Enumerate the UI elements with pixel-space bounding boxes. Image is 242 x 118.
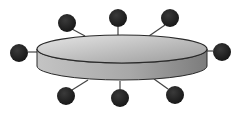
- node-right: [213, 43, 231, 61]
- hub-top: [37, 35, 207, 63]
- node-top-right-link: [149, 25, 165, 36]
- node-bottom-right-link: [154, 79, 168, 89]
- node-top-center: [109, 9, 127, 27]
- node-bottom-center: [111, 89, 129, 107]
- node-top-left-link: [72, 29, 85, 36]
- node-bottom-right: [166, 86, 184, 104]
- bus-topology-diagram: [0, 0, 242, 118]
- diagram-canvas: [0, 0, 242, 118]
- node-left: [10, 44, 28, 62]
- hub-disc: [37, 35, 207, 80]
- node-top-right: [161, 9, 179, 27]
- node-bottom-left: [57, 87, 75, 105]
- node-bottom-left-link: [72, 80, 88, 90]
- node-top-left: [58, 14, 76, 32]
